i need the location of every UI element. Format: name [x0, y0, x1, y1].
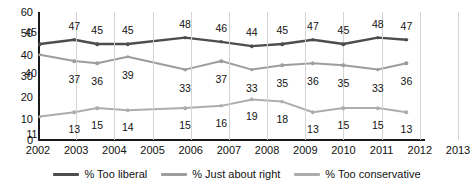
data-point [38, 53, 42, 57]
data-point [342, 64, 346, 68]
data-point [311, 38, 315, 42]
data-point [73, 59, 77, 63]
data-point-label: 13 [401, 124, 413, 135]
gridline [420, 12, 421, 140]
data-point [311, 61, 315, 65]
x-axis-tick-label: 2002 [26, 144, 50, 156]
x-axis-tick-label: 2011 [370, 144, 394, 156]
data-point-label: 47 [401, 21, 413, 32]
data-point [250, 44, 254, 48]
data-point [38, 115, 42, 119]
data-point [38, 42, 42, 46]
x-axis-tick-label: 2005 [140, 144, 164, 156]
x-axis-tick-label: 2006 [178, 144, 202, 156]
legend-swatch-icon [53, 173, 79, 176]
data-point [250, 68, 254, 72]
gridline [267, 12, 268, 140]
data-point-label: 18 [277, 114, 289, 125]
chart-container: 0102030405060 45474545484644454745484740… [0, 0, 474, 190]
data-point-label: 15 [338, 120, 350, 131]
data-point-label: 14 [122, 122, 134, 133]
x-axis-tick-label: 2008 [255, 144, 279, 156]
data-point-label: 37 [215, 74, 227, 85]
data-point [126, 108, 130, 112]
gridline [153, 12, 154, 140]
data-point-label: 36 [91, 76, 103, 87]
data-point [73, 38, 77, 42]
data-point [95, 42, 99, 46]
legend-label: % Too liberal [84, 168, 147, 180]
data-point-label: 35 [338, 78, 350, 89]
x-axis-tick-label: 2010 [331, 144, 355, 156]
data-point [95, 106, 99, 110]
gridline [458, 12, 459, 140]
data-point-label: 45 [25, 27, 37, 38]
y-axis-tick-label: 60 [21, 6, 33, 18]
data-point-label: 45 [277, 25, 289, 36]
data-point-label: 19 [246, 111, 258, 122]
data-point [281, 42, 285, 46]
data-point-label: 33 [246, 83, 258, 94]
data-point [183, 106, 187, 110]
data-point [405, 38, 409, 42]
data-point [73, 111, 77, 115]
data-point-label: 46 [215, 23, 227, 34]
data-point-label: 47 [68, 21, 80, 32]
data-point [220, 104, 224, 108]
data-point [376, 36, 380, 40]
legend-label: % Just about right [192, 168, 280, 180]
data-point [405, 61, 409, 65]
legend-swatch-icon [161, 173, 187, 176]
y-axis-tick-label: 10 [21, 113, 33, 125]
data-point-label: 16 [215, 118, 227, 129]
data-point-label: 44 [246, 27, 258, 38]
x-axis-tick-label: 2007 [217, 144, 241, 156]
data-point-label: 15 [179, 120, 191, 131]
data-point [376, 68, 380, 72]
gridline [229, 12, 230, 140]
data-point-label: 45 [338, 25, 350, 36]
data-point-label: 40 [25, 68, 37, 79]
legend-item[interactable]: % Just about right [161, 168, 280, 180]
data-point [126, 55, 130, 59]
x-axis-tick-label: 2012 [408, 144, 432, 156]
data-point-label: 13 [307, 124, 319, 135]
data-point-label: 36 [307, 76, 319, 87]
data-point [220, 40, 224, 44]
data-point-label: 35 [277, 78, 289, 89]
data-point [95, 61, 99, 65]
data-point [342, 42, 346, 46]
data-point [183, 36, 187, 40]
data-point [250, 98, 254, 102]
data-point-label: 39 [122, 70, 134, 81]
data-point-label: 47 [307, 21, 319, 32]
data-point [281, 100, 285, 104]
x-axis-tick-label: 2013 [446, 144, 470, 156]
x-axis-tick-label: 2004 [102, 144, 126, 156]
data-point-label: 36 [401, 76, 413, 87]
data-point-label: 48 [372, 19, 384, 30]
data-point [311, 111, 315, 115]
y-axis-tick-label: 40 [21, 49, 33, 61]
plot-area: 4547454548464445474548474037363933373335… [38, 12, 458, 140]
data-point [220, 59, 224, 63]
data-point [376, 106, 380, 110]
gridline [114, 12, 115, 140]
data-point-label: 45 [91, 25, 103, 36]
y-axis-tick-label: 20 [21, 91, 33, 103]
data-point [281, 64, 285, 68]
data-point-label: 33 [179, 83, 191, 94]
data-point-label: 15 [372, 120, 384, 131]
legend-swatch-icon [294, 173, 320, 176]
data-point [405, 111, 409, 115]
data-point-label: 37 [68, 74, 80, 85]
legend-label: % Too conservative [325, 168, 420, 180]
chart-legend: % Too liberal% Just about right% Too con… [0, 168, 474, 180]
data-point-label: 45 [122, 25, 134, 36]
legend-item[interactable]: % Too liberal [53, 168, 147, 180]
data-point-label: 13 [68, 124, 80, 135]
legend-item[interactable]: % Too conservative [294, 168, 420, 180]
data-point-label: 33 [372, 83, 384, 94]
x-axis-tick-label: 2009 [293, 144, 317, 156]
data-point [126, 42, 130, 46]
